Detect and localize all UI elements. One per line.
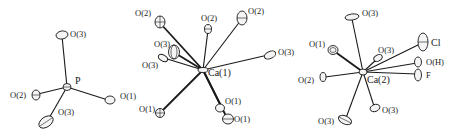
- label-cl: Cl: [431, 37, 441, 48]
- label-o1: O(1): [309, 39, 325, 49]
- label-o3-top: O(3): [70, 29, 86, 39]
- ca1-panel: O(2) O(2) O(2) O(3) O(3) O(3) O(1) O(1) …: [135, 6, 294, 124]
- bond-ca2-o2: [325, 72, 363, 77]
- label-o1-c: O(1): [234, 114, 250, 124]
- label-o3-b: O(3): [142, 60, 158, 70]
- po4-panel: O(3) O(2) O(1) O(3) P: [10, 29, 136, 131]
- label-o3-br: O(3): [382, 105, 398, 115]
- label-o1-b: O(1): [225, 96, 241, 106]
- label-o3-top: O(3): [362, 8, 378, 18]
- bond-ca1-o1-a: [161, 70, 203, 112]
- label-ca2: Ca(2): [367, 74, 390, 86]
- bond-p-o3-top: [62, 36, 67, 87]
- label-o2: O(2): [10, 90, 26, 100]
- ca2-panel: O(3) O(1) O(3) Cl O(H) F O(2) O(3) O(3) …: [298, 8, 444, 127]
- bond-ca2-o3-top: [352, 19, 363, 72]
- diagram-svg: O(3) O(2) O(1) O(3) P O(2) O(: [0, 0, 455, 138]
- label-o3-small: O(3): [378, 45, 394, 55]
- coordination-diagram: O(3) O(2) O(1) O(3) P O(2) O(: [0, 0, 455, 138]
- label-o1: O(1): [120, 91, 136, 101]
- atom-ca2: [359, 69, 367, 75]
- label-o1-a: O(1): [139, 104, 155, 114]
- atom-o3-b: [157, 53, 169, 63]
- label-p: P: [75, 75, 81, 86]
- atom-o1: [328, 46, 338, 55]
- label-o2: O(2): [298, 75, 314, 85]
- label-o3-bl: O(3): [318, 116, 334, 126]
- label-o2-b: O(2): [201, 13, 217, 23]
- atom-o3-top: [345, 13, 360, 21]
- atom-oh: [415, 57, 422, 67]
- label-o3-bottom: O(3): [58, 107, 74, 117]
- label-ca1: Ca(1): [208, 67, 231, 79]
- label-oh: O(H): [426, 57, 444, 67]
- label-o2-c: O(2): [248, 6, 264, 16]
- label-f: F: [426, 70, 431, 80]
- atom-o1: [105, 96, 115, 104]
- label-o2-a: O(2): [135, 8, 151, 18]
- atom-o3-top: [55, 30, 68, 40]
- atom-ca1: [198, 68, 208, 73]
- atom-o3-a: [169, 45, 180, 59]
- atom-f: [415, 69, 422, 81]
- bond-ca2-o3-bl: [346, 72, 363, 118]
- label-o3-a: O(3): [154, 39, 170, 49]
- bond-ca2-o1: [334, 51, 363, 72]
- atom-o3-c: [263, 49, 277, 60]
- atom-o2: [320, 73, 326, 82]
- label-o3-c: O(3): [278, 47, 294, 57]
- atom-o3-br: [369, 103, 381, 113]
- bond-p-o2: [38, 87, 67, 94]
- bond-p-o1: [67, 87, 108, 100]
- atom-o1-b: [216, 104, 225, 112]
